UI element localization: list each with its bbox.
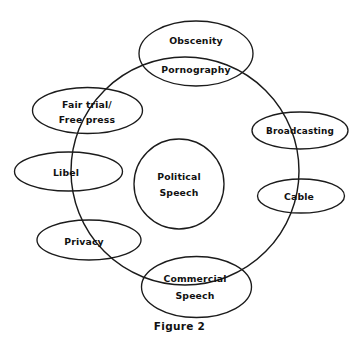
figure-caption: Figure 2 <box>0 320 359 332</box>
label-pornography: Pornography <box>161 64 230 75</box>
figure-container: Obscenity Pornography Fair trial/ Free p… <box>0 0 359 349</box>
label-political-speech-line2: Speech <box>160 187 199 198</box>
label-commercial-speech-line1: Commercial <box>163 273 226 284</box>
ellipse-fair-trial-free-press[interactable] <box>33 88 143 134</box>
label-broadcasting: Broadcasting <box>266 126 334 136</box>
label-commercial-speech-line2: Speech <box>176 290 215 301</box>
circle-political-speech[interactable] <box>134 139 224 229</box>
venn-orbit-diagram: Obscenity Pornography Fair trial/ Free p… <box>0 0 359 349</box>
label-obscenity: Obscenity <box>169 35 223 46</box>
label-political-speech-line1: Political <box>157 171 201 182</box>
label-privacy: Privacy <box>64 236 104 247</box>
label-fair-trial-line1: Fair trial/ <box>62 99 112 110</box>
ellipse-obscenity-pornography[interactable] <box>139 21 253 86</box>
ellipse-commercial-speech[interactable] <box>142 257 252 318</box>
label-libel: Libel <box>53 167 79 178</box>
label-cable: Cable <box>284 191 314 202</box>
label-fair-trial-line2: Free press <box>59 114 116 125</box>
